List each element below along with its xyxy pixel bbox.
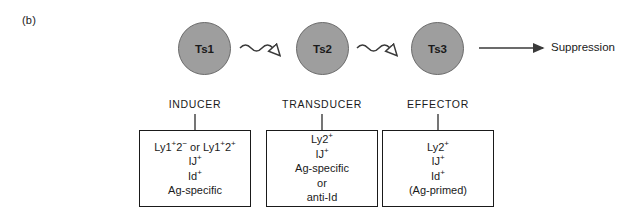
cell-node-ts3-label: Ts3 [428,43,447,55]
panel-label: (b) [22,14,36,26]
phenotype-line: anti-Id [307,190,338,205]
phenotype-line: IJ+ [431,154,444,169]
phenotype-box-effector: Ly2+ IJ+ Id+ (Ag-primed) [382,130,494,207]
phenotype-superscript: + [231,139,236,148]
phenotype-line: Id+ [431,169,445,184]
phenotype-superscript: + [440,153,445,162]
phenotype-superscript: + [444,139,449,148]
phenotype-box-transducer: Ly2+ IJ+ Ag-specific or anti-Id [266,130,378,207]
phenotype-line: Id+ [188,169,202,184]
suppressor-t-cell-cascade-figure: (b) Ts1 Ts2 Ts3 [0,0,626,218]
phenotype-superscript: + [324,146,329,155]
cell-node-ts2: Ts2 [296,22,349,75]
phenotype-line: Ag-specific [168,183,222,198]
phenotype-line: IJ+ [315,147,328,162]
phenotype-text: IJ [431,155,440,167]
phenotype-line: IJ+ [188,154,201,169]
phenotype-text: Ly1 [154,141,171,153]
phenotype-text: IJ [315,148,324,160]
phenotype-text: Ly2 [311,133,328,145]
cell-node-ts3: Ts3 [411,22,464,75]
phenotype-superscript: + [197,168,202,177]
phenotype-box-inducer: Ly1+2− or Ly1+2+ IJ+ Id+ Ag-specific [139,130,251,207]
cell-node-ts2-label: Ts2 [313,43,332,55]
phenotype-line: or [317,176,327,191]
phenotype-text: Id [188,170,197,182]
cell-node-ts1: Ts1 [178,22,231,75]
stage-label-effector: EFFECTOR [382,98,494,110]
phenotype-superscript: + [440,168,445,177]
phenotype-line: Ly1+2− or Ly1+2+ [154,140,236,155]
phenotype-line: Ly2+ [427,140,449,155]
arrow-ts2-to-ts3 [357,45,390,51]
phenotype-text: or Ly1 [187,141,220,153]
phenotype-line: (Ag-primed) [409,183,467,198]
outcome-label: Suppression [551,41,615,53]
phenotype-line: Ly2+ [311,132,333,147]
phenotype-superscript: + [328,132,333,141]
arrow-ts1-to-ts2 [240,45,273,51]
phenotype-text: Ly2 [427,141,444,153]
phenotype-text: IJ [188,155,197,167]
stage-label-inducer: INDUCER [139,98,251,110]
cell-node-ts1-label: Ts1 [195,43,214,55]
phenotype-superscript: + [197,153,202,162]
stage-label-transducer: TRANSDUCER [266,98,378,110]
phenotype-line: Ag-specific [295,161,349,176]
phenotype-text: Id [431,170,440,182]
